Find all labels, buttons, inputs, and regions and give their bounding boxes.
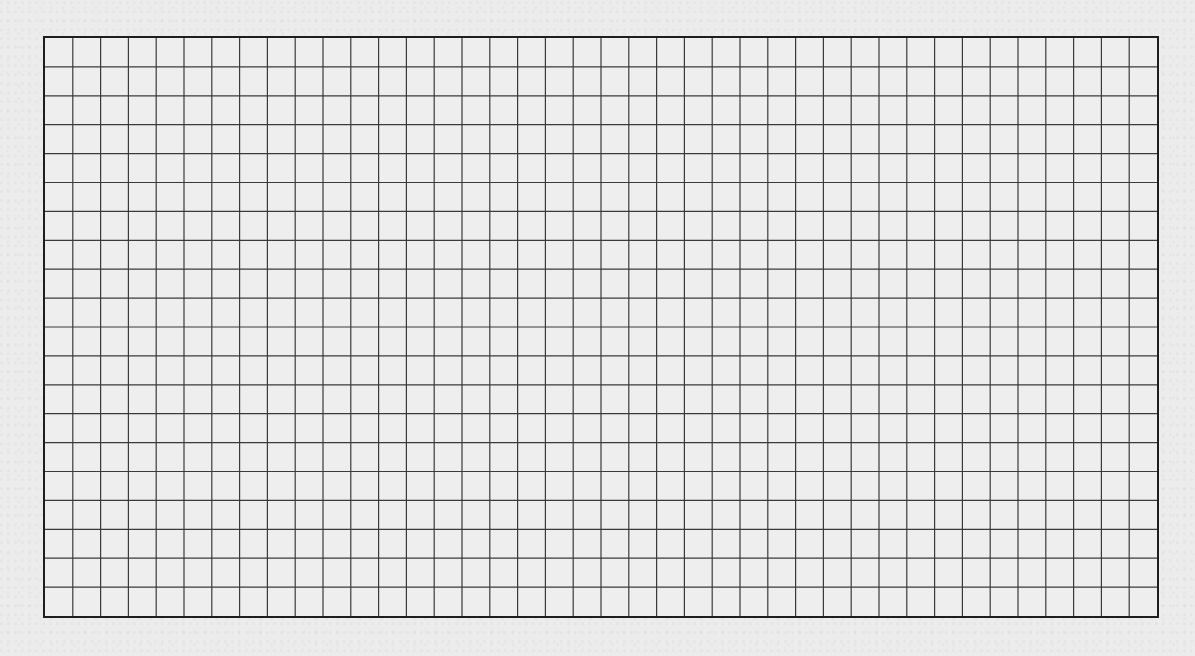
graph-paper-grid [43,36,1159,618]
grid-lines [45,38,1157,616]
